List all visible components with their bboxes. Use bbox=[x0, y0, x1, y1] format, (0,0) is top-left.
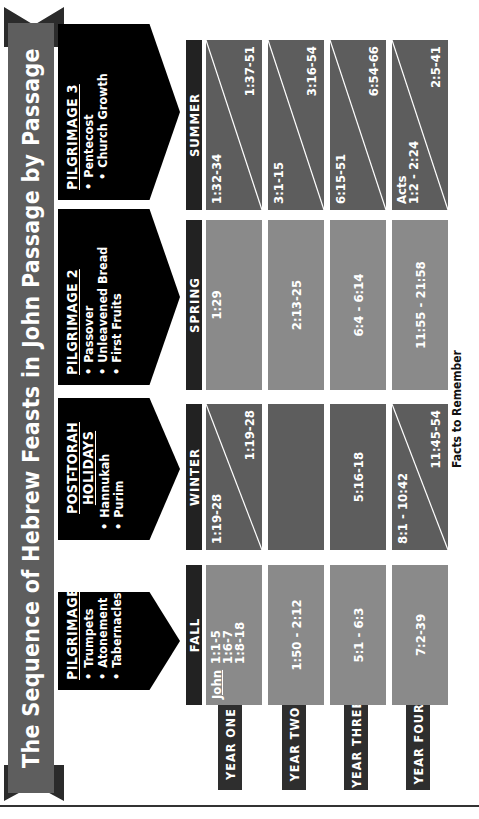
page-divider-line bbox=[0, 806, 479, 808]
cell-year3-summer: 6:15-51 6:54-66 bbox=[330, 40, 386, 210]
season-label: SPRING bbox=[187, 277, 202, 333]
cell-year2-summer: 3:1-15 3:16-54 bbox=[268, 40, 324, 210]
cell-year3-winter: 5:16-18 bbox=[330, 404, 386, 550]
feast-item: Hannukah bbox=[98, 406, 112, 530]
year-text: YEAR ONE bbox=[223, 708, 238, 780]
year-label-three: YEAR THREE bbox=[344, 698, 368, 790]
verse-ref-lower: 3:16-54 bbox=[304, 46, 319, 96]
feast-heading-line2: HOLIDAYS bbox=[80, 406, 96, 530]
verse-ref-lower: 6:54-66 bbox=[366, 46, 381, 96]
footer-text: Facts to Remember bbox=[450, 350, 464, 468]
feast-arrow-pilgrimage-3: PILGRIMAGE 3 Pentecost Church Growth bbox=[58, 24, 180, 200]
cell-year1-summer: 1:32-34 1:37-51 bbox=[206, 40, 262, 210]
cell-year1-spring: 1:29 bbox=[206, 220, 262, 390]
cell-year3-fall: 5:1 - 6:3 bbox=[330, 565, 386, 705]
feast-heading-line1: POST-TORAH bbox=[64, 406, 80, 530]
cell-year1-winter: 1:19-28 1:19-28 bbox=[206, 404, 262, 550]
feast-item: Pentecost bbox=[82, 32, 96, 190]
verse-ref: 1:8-18 bbox=[234, 622, 246, 664]
cell-year4-spring: 11:55 - 21:58 bbox=[392, 220, 448, 390]
feast-arrow-pilgrimage-2: PILGRIMAGE 2 Passover Unleavened Bread F… bbox=[58, 209, 180, 385]
feast-item: Unleavened Bread bbox=[96, 217, 110, 375]
verse-ref-upper: 3:1-15 bbox=[272, 162, 286, 204]
cell-year2-spring: 2:13-25 bbox=[268, 220, 324, 390]
season-header-fall: FALL bbox=[186, 565, 202, 705]
cell-year1-fall: John 1:1-5 1:6-7 1:8-18 bbox=[206, 565, 262, 705]
diagram-canvas: The Sequence of Hebrew Feasts in John Pa… bbox=[0, 0, 479, 819]
feast-heading: PILGRIMAGE 2 bbox=[64, 217, 80, 375]
verse-ref: 1:50 - 2:12 bbox=[289, 599, 304, 670]
season-label: SUMMER bbox=[187, 93, 202, 157]
cell-year2-winter bbox=[268, 404, 324, 550]
title-banner: The Sequence of Hebrew Feasts in John Pa… bbox=[8, 23, 54, 793]
verse-ref: 2:13-25 bbox=[289, 280, 304, 330]
verse-ref: 7:2-39 bbox=[413, 614, 428, 656]
cell-year2-fall: 1:50 - 2:12 bbox=[268, 565, 324, 705]
season-header-summer: SUMMER bbox=[186, 40, 202, 210]
verse-ref-upper: 8:1 - 10:42 bbox=[396, 473, 410, 544]
verse-ref: 5:1 - 6:3 bbox=[351, 608, 366, 663]
feast-item: Atonement bbox=[96, 600, 110, 680]
john-refs: John 1:1-5 1:6-7 1:8-18 bbox=[210, 622, 246, 699]
feast-arrow-pilgrimage-1: PILGRIMAGE 1 Trumpets Atonement Tabernac… bbox=[58, 592, 180, 690]
verse-ref-lower: 1:37-51 bbox=[242, 46, 257, 96]
book-label: John bbox=[210, 670, 246, 699]
verse-ref: 5:16-18 bbox=[351, 452, 366, 502]
feast-heading: PILGRIMAGE 3 bbox=[64, 32, 80, 190]
season-header-winter: WINTER bbox=[186, 404, 202, 550]
year-text: YEAR FOUR bbox=[411, 703, 426, 784]
feast-item: Church Growth bbox=[96, 32, 110, 190]
cell-year4-winter: 8:1 - 10:42 11:45-54 bbox=[392, 404, 448, 550]
feast-item: Purim bbox=[112, 406, 126, 530]
feast-heading: PILGRIMAGE 1 bbox=[64, 600, 80, 680]
verse-ref: 1:29 bbox=[210, 220, 224, 390]
year-label-four: YEAR FOUR bbox=[406, 698, 430, 790]
verse-ref: 11:55 - 21:58 bbox=[413, 261, 428, 348]
verse-ref: 1:2 - 2:24 bbox=[408, 141, 420, 204]
year-text: YEAR THREE bbox=[349, 700, 364, 788]
year-label-two: YEAR TWO bbox=[282, 698, 306, 790]
verse-ref: 6:4 - 6:14 bbox=[351, 273, 366, 336]
cell-year3-spring: 6:4 - 6:14 bbox=[330, 220, 386, 390]
verse-ref-upper: Acts 1:2 - 2:24 bbox=[396, 141, 420, 204]
verse-ref-upper: 6:15-51 bbox=[334, 154, 348, 204]
cell-year4-fall: 7:2-39 bbox=[392, 565, 448, 705]
verse-ref-upper: 1:32-34 bbox=[210, 154, 224, 204]
year-text: YEAR TWO bbox=[287, 707, 302, 782]
verse-ref-lower: 1:19-28 bbox=[242, 410, 257, 460]
year-label-one: YEAR ONE bbox=[218, 698, 242, 790]
feast-item: Trumpets bbox=[82, 600, 96, 680]
feast-arrow-post-torah: POST-TORAH HOLIDAYS Hannukah Purim bbox=[58, 398, 180, 540]
season-label: WINTER bbox=[187, 448, 202, 506]
cell-year4-summer: Acts 1:2 - 2:24 2:5-41 bbox=[392, 40, 448, 210]
verse-ref-lower: 2:5-41 bbox=[428, 46, 443, 88]
feast-item: Passover bbox=[82, 217, 96, 375]
feast-item: Tabernacles bbox=[110, 600, 124, 680]
feast-item: First Fruits bbox=[110, 217, 124, 375]
footer-caption: Facts to Remember bbox=[450, 299, 468, 519]
verse-ref-upper: 1:19-28 bbox=[210, 494, 224, 544]
season-label: FALL bbox=[187, 618, 202, 652]
verse-ref-lower: 11:45-54 bbox=[428, 410, 443, 468]
page-title: The Sequence of Hebrew Feasts in John Pa… bbox=[18, 48, 44, 768]
season-header-spring: SPRING bbox=[186, 220, 202, 390]
